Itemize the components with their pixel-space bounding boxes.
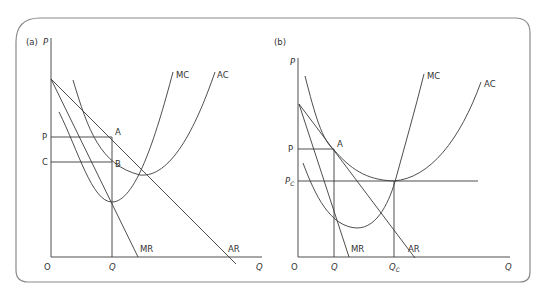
panel-b-ac-curve: [305, 76, 481, 181]
panel-a-y-axis-label: P: [43, 37, 49, 47]
panel-b-mc-label: MC: [427, 71, 440, 81]
frame-border: [16, 18, 530, 282]
panel-b-ac-label: AC: [484, 79, 496, 89]
panel-a-tag: (a): [26, 37, 38, 47]
panel-a-ar-label: AR: [228, 244, 240, 254]
monopoly-diagram: (a) P O Q AR MR MC AC P C Q A B (b) P: [0, 0, 543, 298]
panel-a-ar-curve: [51, 79, 236, 264]
panel-a-ac-label: AC: [217, 70, 229, 80]
panel-b-quantity-label: Q: [331, 262, 338, 272]
panel-a-quantity-label: Q: [109, 262, 116, 272]
panel-b-competitive-quantity-label: QC: [389, 262, 401, 273]
panel-b: (b) P O Q AR MR AC MC P PC A Q QC: [274, 37, 512, 273]
panel-a-mc-label: MC: [176, 70, 189, 80]
panel-a-origin-label: O: [44, 262, 51, 272]
panel-b-mr-label: MR: [351, 244, 364, 254]
panel-b-tag: (b): [274, 37, 286, 47]
panel-a-ac-curve: [73, 72, 215, 175]
panel-a-point-a: A: [115, 127, 121, 137]
panel-b-competitive-price-label: PC: [285, 176, 295, 187]
panel-a-x-axis-label: Q: [256, 262, 263, 272]
panel-a-cost-label: C: [42, 157, 48, 167]
panel-a-mr-label: MR: [140, 244, 153, 254]
panel-a-mr-curve: [51, 79, 138, 257]
panel-b-x-axis-label: Q: [505, 262, 512, 272]
panel-a: (a) P O Q AR MR MC AC P C Q A B: [26, 37, 263, 272]
panel-b-price-label: P: [288, 144, 293, 154]
panel-b-y-axis-label: P: [290, 57, 296, 67]
panel-a-price-label: P: [42, 132, 47, 142]
panel-b-origin-label: O: [291, 262, 298, 272]
panel-b-point-a: A: [337, 139, 343, 149]
panel-b-mr-curve: [299, 104, 349, 257]
panel-b-mc-curve: [303, 74, 424, 228]
panel-a-point-b: B: [115, 159, 121, 169]
panel-b-ar-label: AR: [408, 244, 420, 254]
